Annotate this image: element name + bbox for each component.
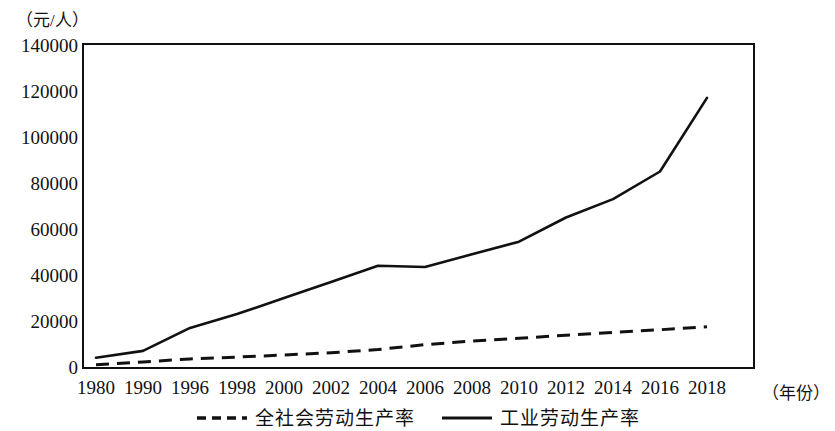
series-line-whole-society <box>96 327 707 365</box>
y-axis-tick: 140000 <box>4 36 78 55</box>
chart-figure: （元/人） 0200004000060000800001000001200001… <box>0 0 835 431</box>
legend-swatch-dashed-icon <box>196 410 248 422</box>
chart-lines <box>84 45 753 367</box>
legend-label-whole-society: 全社会劳动生产率 <box>255 403 415 430</box>
y-axis-tick-labels: 020000400006000080000100000120000140000 <box>0 0 78 431</box>
y-axis-tick: 20000 <box>4 312 78 331</box>
legend-label-industrial: 工业劳动生产率 <box>500 403 640 430</box>
legend-item-industrial: 工业劳动生产率 <box>441 403 640 430</box>
plot-area <box>82 43 755 369</box>
series-line-industrial <box>96 98 707 358</box>
y-axis-tick: 80000 <box>4 174 78 193</box>
y-axis-tick: 0 <box>4 358 78 377</box>
y-axis-tick: 120000 <box>4 82 78 101</box>
y-axis-tick: 60000 <box>4 220 78 239</box>
y-axis-tick: 100000 <box>4 128 78 147</box>
x-axis-unit-label: （年份） <box>762 379 830 404</box>
y-axis-tick: 40000 <box>4 266 78 285</box>
chart-legend: 全社会劳动生产率 工业劳动生产率 <box>0 402 835 430</box>
x-axis-tick-labels: 1980199019961998200020022004200620082010… <box>0 378 835 404</box>
legend-swatch-solid-icon <box>441 410 493 422</box>
x-axis-tick: 2018 <box>677 378 737 397</box>
legend-item-whole-society: 全社会劳动生产率 <box>196 403 415 430</box>
